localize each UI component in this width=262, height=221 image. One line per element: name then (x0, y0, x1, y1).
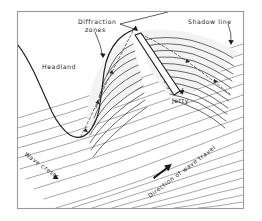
wave-diffraction-diagram: Diffraction zones Shadow line Headland J… (0, 0, 262, 221)
label-shadow-line: Shadow line (188, 18, 232, 25)
label-jetty: Jetty (171, 97, 189, 105)
label-diffraction-zones-line1: Diffraction (78, 18, 116, 25)
label-headland: Headland (42, 63, 76, 70)
figure-canvas: Diffraction zones Shadow line Headland J… (0, 0, 262, 221)
label-diffraction-zones-line2: zones (85, 26, 106, 33)
